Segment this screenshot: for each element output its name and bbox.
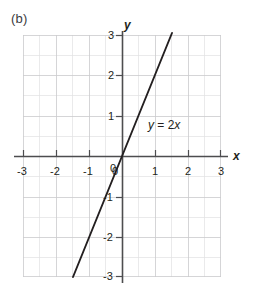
x-axis-label: x [233,150,240,162]
y-tick-label-0: 0 [110,163,116,174]
x-tick-label-2: 2 [185,166,191,177]
curve-annotation-y-equals-2x: y = 2x [148,119,180,132]
x-tick-label-3: 3 [218,166,224,177]
y-tick-label-2: 2 [108,70,114,81]
coordinate-plane-plot [0,0,259,290]
y-axis-label: y [124,19,131,31]
y-tick-label--3: -3 [103,271,113,282]
x-tick-label--2: -2 [50,166,60,177]
curve-annotation-x: x [174,118,180,132]
y-tick-label--1: -1 [103,192,113,203]
y-tick-label-1: 1 [108,111,114,122]
x-tick-label-1: 1 [152,166,158,177]
y-tick-label-3: 3 [108,30,114,41]
figure-panel: (b) [0,0,259,290]
y-tick-label--2: -2 [103,232,113,243]
curve-annotation-equals-2: = 2 [154,118,174,132]
x-tick-label--3: -3 [17,166,27,177]
x-tick-label--1: -1 [83,166,93,177]
